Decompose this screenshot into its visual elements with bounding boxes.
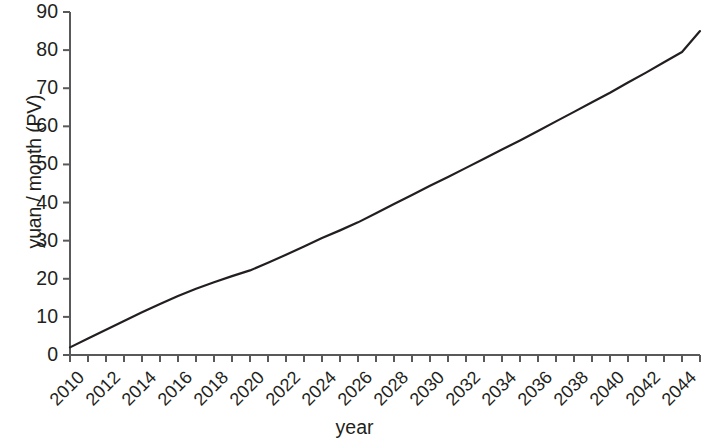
y-tick-label: 90 bbox=[12, 2, 58, 22]
y-tick-label: 10 bbox=[12, 307, 58, 327]
axes-group bbox=[70, 12, 700, 355]
tick-marks-group bbox=[63, 12, 700, 362]
y-tick-label: 0 bbox=[12, 345, 58, 365]
data-series-line bbox=[70, 31, 700, 347]
y-axis-title: yuan / month (PV) bbox=[23, 42, 46, 302]
x-axis-title: year bbox=[0, 416, 709, 439]
line-chart-figure: 0102030405060708090 20102012201420162018… bbox=[0, 0, 709, 440]
